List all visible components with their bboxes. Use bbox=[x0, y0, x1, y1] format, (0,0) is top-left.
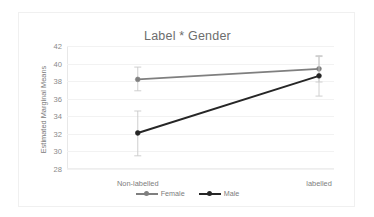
x-tick-label: Non-labelled bbox=[117, 179, 159, 188]
y-tick-label: 28 bbox=[36, 165, 62, 174]
series-line bbox=[138, 69, 319, 80]
chart-figure: Label * Gender Estimated Marginal Means … bbox=[0, 0, 374, 217]
data-point-marker bbox=[135, 131, 140, 136]
y-tick-label: 38 bbox=[36, 77, 62, 86]
chart-legend: FemaleMale bbox=[19, 189, 356, 198]
plot-area: 2830323436384042 Non-labelledlabelled bbox=[67, 46, 334, 169]
y-tick-label: 30 bbox=[36, 147, 62, 156]
gridline bbox=[67, 169, 334, 170]
legend-marker-icon bbox=[199, 190, 221, 197]
y-tick-label: 42 bbox=[36, 42, 62, 51]
x-tick-label: labelled bbox=[306, 179, 331, 188]
legend-label: Male bbox=[224, 189, 240, 198]
series-layer bbox=[67, 46, 334, 169]
y-tick-label: 32 bbox=[36, 129, 62, 138]
series-male bbox=[134, 57, 322, 156]
y-tick-label: 34 bbox=[36, 112, 62, 121]
legend-item-female[interactable]: Female bbox=[136, 189, 185, 198]
legend-item-male[interactable]: Male bbox=[199, 189, 240, 198]
legend-label: Female bbox=[161, 189, 185, 198]
series-line bbox=[138, 76, 319, 133]
data-point-marker bbox=[135, 77, 140, 82]
data-point-marker bbox=[317, 73, 322, 78]
series-female bbox=[134, 56, 322, 91]
legend-marker-icon bbox=[136, 190, 158, 197]
y-tick-label: 40 bbox=[36, 59, 62, 68]
y-tick-label: 36 bbox=[36, 94, 62, 103]
chart-frame: Label * Gender Estimated Marginal Means … bbox=[18, 12, 355, 207]
chart-title: Label * Gender bbox=[19, 29, 356, 43]
